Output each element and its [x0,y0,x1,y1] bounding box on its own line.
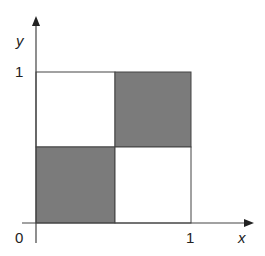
x-tick-label: 1 [186,229,194,246]
cell-bottom-left [36,147,115,223]
y-axis-label: y [15,32,25,49]
x-axis-label: x [237,229,246,246]
y-tick-label: 1 [15,63,23,80]
checkerboard-diagram: y 1 0 1 x [0,0,265,256]
cell-bottom-right [115,147,191,223]
y-axis-arrow-icon [32,16,40,26]
origin-label: 0 [15,229,23,246]
x-axis-arrow-icon [244,219,254,227]
cell-top-right [115,72,191,147]
cell-top-left [36,72,115,147]
